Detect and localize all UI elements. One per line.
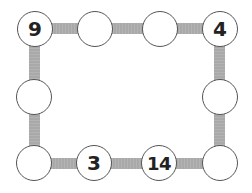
node-right-mid[interactable] [202, 79, 238, 115]
node-top-left[interactable]: 9 [17, 11, 53, 47]
node-bottom-right[interactable] [202, 145, 238, 181]
node-bottom-2[interactable]: 3 [76, 145, 112, 181]
node-top-right[interactable]: 4 [202, 11, 238, 47]
top-edge-bar [35, 23, 220, 34]
node-left-mid[interactable] [16, 79, 52, 115]
node-bottom-left[interactable] [16, 145, 52, 181]
bottom-edge-bar [34, 158, 220, 169]
node-bottom-3[interactable]: 14 [141, 145, 177, 181]
node-top-3[interactable] [142, 11, 178, 47]
node-top-2[interactable] [77, 11, 113, 47]
